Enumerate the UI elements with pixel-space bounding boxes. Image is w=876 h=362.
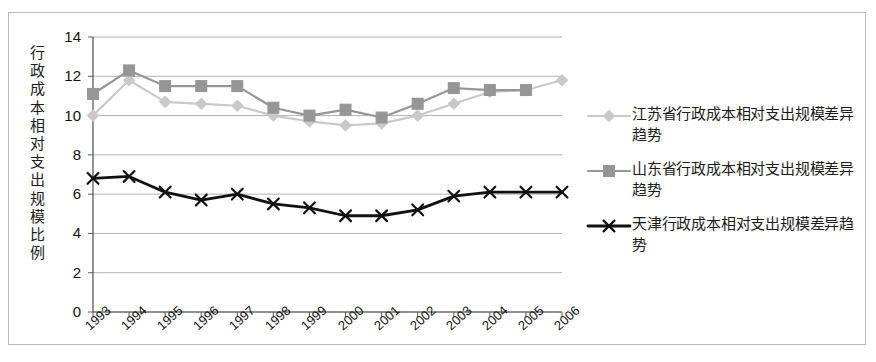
- legend-item-3[interactable]: 天津行政成本相对支出规模差异趋势: [586, 214, 862, 256]
- data-point-square: [268, 102, 279, 113]
- data-point-diamond: [340, 120, 350, 130]
- y-tick-label: 6: [47, 185, 81, 202]
- legend-marker-icon: [586, 216, 632, 236]
- data-point-square: [160, 81, 171, 92]
- legend-item-label: 山东省行政成本相对支出规模差异趋势: [632, 159, 862, 201]
- data-point-square: [521, 85, 532, 96]
- legend-marker-icon: [586, 161, 632, 181]
- data-point-square: [412, 98, 423, 109]
- y-tick-label: 12: [47, 67, 81, 84]
- data-point-square: [304, 110, 315, 121]
- y-tick-label: 8: [47, 146, 81, 163]
- legend-item-label: 江苏省行政成本相对支出规模差异趋势: [632, 104, 862, 146]
- y-tick-label: 14: [47, 28, 81, 45]
- data-point-diamond: [604, 111, 614, 121]
- chart-legend: 江苏省行政成本相对支出规模差异趋势山东省行政成本相对支出规模差异趋势天津行政成本…: [586, 104, 862, 269]
- legend-marker-icon: [586, 106, 632, 126]
- data-point-square: [448, 83, 459, 94]
- data-point-diamond: [232, 101, 242, 111]
- data-point-square: [484, 85, 495, 96]
- y-tick-label: 10: [47, 107, 81, 124]
- gridlines: [88, 37, 562, 312]
- data-point-diamond: [449, 99, 459, 109]
- data-point-square: [88, 89, 99, 100]
- y-tick-label: 2: [47, 264, 81, 281]
- data-point-square: [340, 104, 351, 115]
- data-point-square: [196, 81, 207, 92]
- series-3: [88, 171, 568, 221]
- data-point-square: [376, 112, 387, 123]
- data-point-diamond: [160, 97, 170, 107]
- legend-item-1[interactable]: 江苏省行政成本相对支出规模差异趋势: [586, 104, 862, 146]
- data-point-square: [604, 166, 615, 177]
- data-point-diamond: [412, 110, 422, 120]
- data-point-diamond: [196, 99, 206, 109]
- legend-item-2[interactable]: 山东省行政成本相对支出规模差异趋势: [586, 159, 862, 201]
- series-line: [93, 176, 562, 215]
- data-point-square: [232, 81, 243, 92]
- legend-item-label: 天津行政成本相对支出规模差异趋势: [632, 214, 862, 256]
- y-tick-label: 0: [47, 303, 81, 320]
- y-tick-label: 4: [47, 224, 81, 241]
- chart-figure: 行政成本相对支出规模比例 02468101214 199319941995199…: [0, 0, 876, 362]
- data-point-square: [124, 65, 135, 76]
